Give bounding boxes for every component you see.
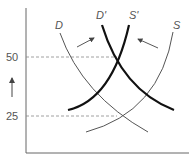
demand-shift-arrow-icon	[77, 38, 94, 47]
y-tick-25: 25	[6, 110, 18, 122]
y-tick-50: 50	[6, 51, 18, 63]
label-d-prime: D'	[96, 9, 107, 21]
label-s: S	[173, 19, 181, 31]
supply-demand-diagram: 50 25 D D' S' S	[0, 0, 189, 162]
label-d: D	[55, 19, 63, 31]
label-s-prime: S'	[129, 9, 139, 21]
supply-shift-arrow-icon	[138, 39, 158, 48]
curve-s	[86, 32, 173, 132]
